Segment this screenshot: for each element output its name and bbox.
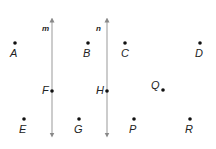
diagram-canvas: m n A B C D F H Q E G P <box>0 0 216 149</box>
point-C: C <box>121 41 129 59</box>
point-P: P <box>129 117 137 135</box>
line-n: n <box>96 20 107 135</box>
point-R-label: R <box>185 123 193 135</box>
point-C-label: C <box>121 47 129 59</box>
point-D: D <box>195 41 203 59</box>
point-A-label: A <box>9 47 17 59</box>
line-m: m <box>42 20 52 135</box>
line-m-label: m <box>42 24 49 33</box>
point-B: B <box>83 41 90 59</box>
point-F-label: F <box>42 84 50 96</box>
point-D-label: D <box>195 47 203 59</box>
line-n-label: n <box>96 24 101 33</box>
point-Q: Q <box>151 79 165 92</box>
point-E-label: E <box>19 123 27 135</box>
point-G-label: G <box>74 123 83 135</box>
point-P-label: P <box>129 123 137 135</box>
point-G: G <box>74 117 83 135</box>
point-H-label: H <box>96 84 104 96</box>
point-Q-label: Q <box>151 79 160 91</box>
point-A: A <box>9 41 17 59</box>
point-B-label: B <box>83 47 90 59</box>
point-R: R <box>185 117 193 135</box>
point-E: E <box>19 117 27 135</box>
